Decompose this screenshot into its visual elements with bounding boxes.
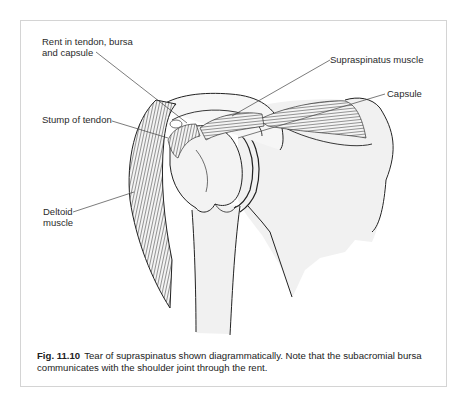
figure-caption: Fig. 11.10Tear of supraspinatus shown di… xyxy=(37,350,437,374)
label-capsule: Capsule xyxy=(387,88,422,99)
caption-text: Tear of supraspinatus shown diagrammatic… xyxy=(37,350,422,373)
deltoid-muscle xyxy=(129,100,176,308)
label-deltoid-line1: Deltoid xyxy=(43,206,73,217)
humerus xyxy=(170,126,242,335)
label-rent-line2: and capsule xyxy=(42,47,133,58)
label-deltoid: Deltoid muscle xyxy=(43,206,73,228)
label-rent-line1: Rent in tendon, bursa xyxy=(42,36,133,47)
figure-number: Fig. 11.10 xyxy=(37,350,80,361)
label-stump: Stump of tendon xyxy=(42,114,112,125)
label-deltoid-line2: muscle xyxy=(43,217,73,228)
label-supraspinatus: Supraspinatus muscle xyxy=(330,54,423,65)
label-rent: Rent in tendon, bursa and capsule xyxy=(42,36,133,58)
